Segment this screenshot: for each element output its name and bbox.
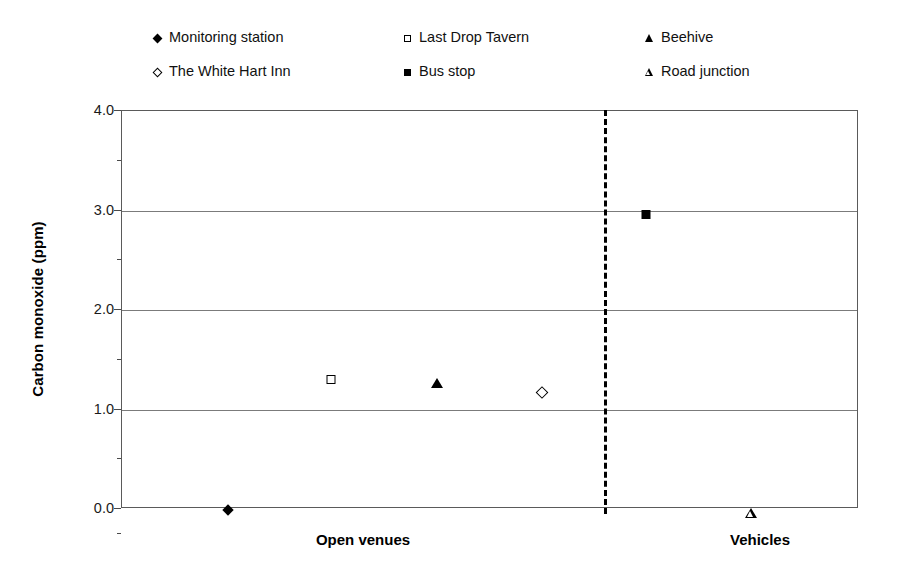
y-axis-tick-label: 1.0 bbox=[38, 401, 114, 417]
y-axis-tick-major bbox=[114, 508, 121, 509]
y-axis-labels: 4.0 3.0 2.0 1.0 0.0 bbox=[28, 0, 114, 581]
category-divider bbox=[604, 110, 607, 514]
y-axis-tick-major bbox=[114, 110, 121, 111]
legend-item-the-white-hart-inn: The White Hart Inn bbox=[150, 64, 291, 79]
chart-screenshot: Monitoring station Last Drop Tavern Beeh… bbox=[0, 0, 901, 581]
data-point-bus-stop bbox=[642, 205, 651, 223]
data-point-monitoring-station bbox=[224, 500, 232, 518]
legend-item-bus-stop: Bus stop bbox=[400, 64, 475, 79]
gridline-3 bbox=[122, 211, 857, 212]
legend-label: Beehive bbox=[661, 30, 713, 45]
x-axis-label-vehicles: Vehicles bbox=[730, 531, 790, 548]
legend-label: The White Hart Inn bbox=[169, 64, 291, 79]
y-axis-tick-minor bbox=[117, 533, 121, 534]
legend-label: Bus stop bbox=[419, 64, 475, 79]
triangle-filled-icon bbox=[642, 30, 656, 45]
diamond-filled-icon bbox=[150, 30, 164, 45]
gridline-2 bbox=[122, 310, 857, 311]
diamond-open-icon bbox=[150, 64, 164, 79]
y-axis-tick-label: 4.0 bbox=[38, 102, 114, 118]
y-axis-tick-major bbox=[114, 210, 121, 211]
legend-item-monitoring-station: Monitoring station bbox=[150, 30, 283, 45]
square-open-icon bbox=[400, 30, 414, 45]
y-axis-tick-major bbox=[114, 409, 121, 410]
y-axis-tick-major bbox=[114, 309, 121, 310]
x-axis-label-open-venues: Open venues bbox=[316, 531, 410, 548]
data-point-road-junction bbox=[745, 503, 757, 521]
plot-area bbox=[121, 110, 858, 508]
legend-item-beehive: Beehive bbox=[642, 30, 713, 45]
y-axis-tick-label: 2.0 bbox=[38, 301, 114, 317]
data-point-last-drop-tavern bbox=[327, 370, 336, 388]
data-point-beehive bbox=[431, 373, 443, 391]
gridline-1 bbox=[122, 410, 857, 411]
legend-label: Monitoring station bbox=[169, 30, 283, 45]
y-axis-tick-label: 3.0 bbox=[38, 202, 114, 218]
legend-label: Last Drop Tavern bbox=[419, 30, 529, 45]
data-point-the-white-hart-inn bbox=[538, 383, 547, 401]
square-filled-icon bbox=[400, 64, 414, 79]
triangle-open-icon bbox=[642, 64, 656, 79]
y-axis-tick-label: 0.0 bbox=[38, 500, 114, 516]
chart-legend: Monitoring station Last Drop Tavern Beeh… bbox=[150, 26, 870, 88]
legend-label: Road junction bbox=[661, 64, 750, 79]
legend-item-road-junction: Road junction bbox=[642, 64, 750, 79]
legend-item-last-drop-tavern: Last Drop Tavern bbox=[400, 30, 529, 45]
